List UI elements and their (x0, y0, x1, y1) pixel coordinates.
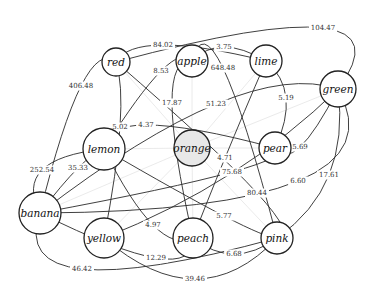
node-label: pink (265, 232, 288, 244)
edge-weight-label: 406.48 (69, 82, 94, 90)
node-peach: peach (173, 218, 213, 258)
edge-weight-label: 6.60 (290, 177, 306, 185)
edge-weight-label: 75.68 (222, 168, 242, 176)
node-lime: lime (250, 45, 282, 77)
node-label: yellow (86, 232, 121, 244)
node-yellow: yellow (84, 218, 124, 258)
edge-weight-label: 5.69 (292, 143, 308, 151)
edge-weight-label: 84.02 (153, 41, 173, 49)
node-label: apple (177, 55, 206, 67)
node-red: red (102, 48, 130, 76)
edge-weight-label: 80.44 (247, 189, 268, 197)
node-label: red (107, 56, 125, 68)
edge-weight-label: 104.47 (311, 24, 336, 32)
node-label: green (323, 83, 354, 95)
edge-weight-label: 12.29 (146, 254, 166, 262)
edge-weight-label: 648.48 (211, 64, 236, 72)
edge-weight-label: 5.19 (278, 94, 294, 102)
edge-weight-label: 17.61 (319, 171, 339, 179)
edge-weight-label: 35.33 (68, 164, 88, 172)
node-apple: apple (176, 45, 208, 77)
edge-weight-label: 5.02 (112, 123, 128, 131)
edge-weight-label: 39.46 (185, 275, 206, 283)
node-pink: pink (261, 222, 293, 254)
node-orange: orange (173, 130, 210, 166)
node-lemon: lemon (83, 128, 125, 170)
edge-weight-label: 5.77 (216, 212, 232, 220)
node-label: banana (20, 207, 59, 219)
node-label: lime (255, 55, 278, 67)
edge-weight-label: 4.37 (138, 121, 154, 129)
edge-weight-label: 252.54 (30, 166, 55, 174)
graph-diagram: 104.4784.023.758.53648.48406.4817.8751.2… (0, 0, 366, 296)
edge-weight-label: 46.42 (72, 265, 92, 273)
edge-weight-label: 8.53 (153, 67, 169, 75)
edge-weight-label: 17.87 (162, 99, 182, 107)
node-label: lemon (88, 143, 121, 155)
node-label: peach (177, 232, 209, 244)
edge-weight-label: 4.71 (217, 154, 233, 162)
edge-weight-label: 6.68 (226, 250, 242, 258)
edge-weight-label: 51.23 (206, 100, 226, 108)
edge-weight-label: 4.97 (145, 221, 161, 229)
node-label: pear (263, 142, 288, 154)
node-label: orange (173, 142, 210, 154)
edge-weight-label: 3.75 (216, 43, 232, 51)
node-pear: pear (259, 132, 291, 164)
node-green: green (320, 71, 356, 107)
edge-red-green (116, 27, 355, 89)
node-banana: banana (19, 192, 61, 234)
